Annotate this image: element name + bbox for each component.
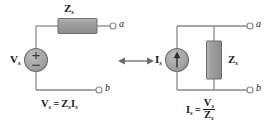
- left-terminal-a-label: a: [119, 19, 124, 29]
- right-equation-denominator-sub: s: [211, 114, 214, 122]
- left-equation-lhs-sub: s: [49, 103, 52, 111]
- voltage-source-label: Vs: [10, 54, 21, 65]
- right-impedance-label: Zs: [228, 54, 238, 65]
- equivalence-arrow-head-right: [147, 58, 154, 65]
- equivalence-arrow-head-left: [118, 58, 125, 65]
- left-impedance-label: Zs: [64, 3, 74, 14]
- right-equation-fraction: Vs Zs: [203, 98, 215, 120]
- left-terminal-a-node: [110, 23, 116, 29]
- left-equation-rhs-current: Is: [71, 99, 78, 110]
- current-source-label-sub: s: [159, 59, 162, 67]
- right-equation-denominator: Zs: [203, 109, 215, 121]
- voltage-source-label-main: V: [10, 53, 18, 65]
- current-source-label: Is: [155, 54, 162, 65]
- right-terminal-b-label: b: [256, 83, 261, 93]
- right-terminal-a-node: [247, 23, 253, 29]
- left-equation-rhs-impedance: Zs: [61, 99, 71, 110]
- left-equation-lhs-main: V: [41, 98, 49, 109]
- left-circuit-group: [25, 19, 117, 94]
- right-impedance-box: [207, 41, 222, 79]
- left-equation-lhs: Vs: [41, 99, 51, 110]
- left-terminal-b-label: b: [105, 83, 110, 93]
- right-equation-numerator-sub: s: [211, 102, 214, 110]
- left-equation: Vs = Zs Is: [41, 99, 78, 110]
- left-terminal-b-node: [96, 87, 102, 93]
- left-equation-rhs-impedance-sub: s: [68, 103, 71, 111]
- right-equation-operator: =: [193, 105, 203, 116]
- left-equation-operator: =: [51, 99, 61, 110]
- right-equation-lhs: Is: [186, 105, 193, 116]
- left-impedance-label-sub: s: [71, 8, 74, 16]
- right-terminal-a-label: a: [256, 19, 261, 29]
- right-terminal-b-node: [247, 87, 253, 93]
- left-equation-rhs-current-sub: s: [75, 103, 78, 111]
- voltage-source-label-sub: s: [18, 59, 21, 67]
- voltage-source-symbol: [25, 49, 48, 72]
- left-impedance-box: [58, 19, 97, 34]
- right-equation: Is = Vs Zs: [186, 99, 215, 121]
- right-equation-lhs-sub: s: [190, 109, 193, 117]
- right-equation-numerator: Vs: [203, 98, 215, 109]
- right-circuit-group: [166, 23, 254, 93]
- equivalence-arrow: [118, 58, 154, 65]
- figure-canvas: Zs Vs a b Vs = Zs Is Is Zs a b Is = Vs Z…: [0, 0, 272, 126]
- right-impedance-label-sub: s: [235, 59, 238, 67]
